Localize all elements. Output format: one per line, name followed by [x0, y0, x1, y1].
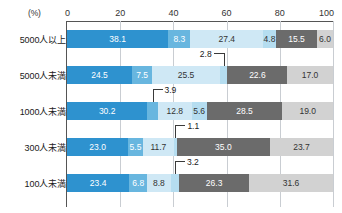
bar-row: 5000人未満24.57.525.52.822.617.0	[0, 66, 342, 84]
segment-value-label: 26.3	[206, 179, 223, 188]
segment-value-label: 23.0	[89, 143, 106, 152]
bar-segment: 30.2	[67, 102, 147, 120]
axis-unit-label: (%)	[28, 8, 41, 18]
x-axis-labels: (%) 0 20 40 60 80 100	[0, 8, 342, 22]
segment-value-label: 11.7	[150, 143, 166, 152]
segment-value-label: 6.0	[319, 35, 331, 44]
bar-row: 1000人未満30.23.912.85.628.519.0	[0, 102, 342, 120]
callout-leader-horizontal	[175, 161, 185, 162]
category-label: 5000人未満	[2, 69, 66, 82]
stacked-bar: 23.46.88.83.226.331.6	[67, 174, 333, 192]
bar-segment: 11.7	[143, 138, 174, 156]
bar-row: 5000人以上38.18.327.44.815.56.0	[0, 30, 342, 48]
category-label: 5000人以上	[2, 33, 66, 46]
bar-segment: 27.4	[190, 30, 263, 48]
callout-leader-vertical	[175, 161, 176, 174]
bar-segment: 35.0	[177, 138, 270, 156]
callout-value: 1.1	[187, 121, 199, 131]
segment-value-label: 22.6	[249, 71, 266, 80]
segment-value-label: 4.8	[264, 35, 276, 44]
callout-leader-vertical	[175, 125, 176, 138]
bar-segment: 4.8	[263, 30, 276, 48]
bar-segment: 23.4	[67, 174, 129, 192]
segment-value-label: 5.6	[193, 107, 205, 116]
bar-segment: 5.6	[192, 102, 207, 120]
bar-segment: 5.5	[128, 138, 143, 156]
segment-value-label: 23.7	[293, 143, 310, 152]
stacked-bar-chart: (%) 0 20 40 60 80 100 5000人以上38.18.327.4…	[0, 0, 342, 213]
callout-value: 3.9	[165, 85, 177, 95]
bar-segment: 24.5	[67, 66, 132, 84]
x-tick-100: 100	[319, 8, 334, 18]
bar-segment: 6.0	[317, 30, 333, 48]
bar-segment: 23.0	[67, 138, 128, 156]
segment-value-label: 30.2	[99, 107, 116, 116]
x-tick-0: 0	[65, 8, 70, 18]
segment-value-label: 28.5	[236, 107, 253, 116]
bar-segment: 3.9	[147, 102, 157, 120]
callout-leader-horizontal	[214, 53, 224, 54]
bar-segment: 8.8	[147, 174, 170, 192]
bar-segment: 23.7	[270, 138, 333, 156]
bar-segment: 19.0	[282, 102, 333, 120]
x-tick-20: 20	[115, 8, 125, 18]
callout-leader-vertical	[224, 53, 225, 66]
bar-segment: 7.5	[132, 66, 152, 84]
bar-segment: 38.1	[67, 30, 168, 48]
callout-value: 2.8	[200, 49, 212, 59]
bar-segment: 3.2	[171, 174, 180, 192]
segment-value-label: 17.0	[302, 71, 319, 80]
bar-segment: 15.5	[276, 30, 317, 48]
segment-value-label: 7.5	[136, 71, 148, 80]
x-tick-40: 40	[168, 8, 178, 18]
bar-row: 100人未満23.46.88.83.226.331.6	[0, 174, 342, 192]
bar-segment: 6.8	[129, 174, 147, 192]
bar-segment: 25.5	[152, 66, 220, 84]
callout-leader-vertical	[153, 89, 154, 102]
callout-leader-horizontal	[175, 125, 185, 126]
segment-value-label: 19.0	[299, 107, 316, 116]
segment-value-label: 27.4	[218, 35, 235, 44]
segment-value-label: 38.1	[109, 35, 126, 44]
bar-segment: 12.8	[158, 102, 192, 120]
segment-value-label: 35.0	[215, 143, 232, 152]
stacked-bar: 23.05.511.71.135.023.7	[67, 138, 333, 156]
callout-leader-horizontal	[153, 89, 163, 90]
segment-value-label: 8.8	[153, 179, 165, 188]
callout-value: 3.2	[187, 157, 199, 167]
category-label: 1000人未満	[2, 105, 66, 118]
segment-value-label: 31.6	[283, 179, 300, 188]
bar-segment: 8.3	[168, 30, 190, 48]
segment-value-label: 24.5	[91, 71, 108, 80]
segment-value-label: 8.3	[173, 35, 185, 44]
segment-value-label: 12.8	[166, 107, 183, 116]
segment-value-label: 6.8	[132, 179, 144, 188]
stacked-bar: 24.57.525.52.822.617.0	[67, 66, 333, 84]
bar-segment: 22.6	[227, 66, 287, 84]
segment-value-label: 15.5	[288, 35, 305, 44]
segment-value-label: 23.4	[90, 179, 107, 188]
x-tick-80: 80	[275, 8, 285, 18]
category-label: 300人未満	[2, 141, 66, 154]
bar-row: 300人未満23.05.511.71.135.023.7	[0, 138, 342, 156]
bar-segment: 26.3	[179, 174, 249, 192]
category-label: 100人未満	[2, 177, 66, 190]
x-tick-60: 60	[222, 8, 232, 18]
bar-segment: 31.6	[249, 174, 333, 192]
bar-segment: 17.0	[287, 66, 332, 84]
segment-value-label: 25.5	[178, 71, 195, 80]
bar-segment: 28.5	[207, 102, 283, 120]
bar-segment: 2.8	[220, 66, 227, 84]
stacked-bar: 30.23.912.85.628.519.0	[67, 102, 333, 120]
stacked-bar: 38.18.327.44.815.56.0	[67, 30, 333, 48]
segment-value-label: 5.5	[130, 143, 142, 152]
